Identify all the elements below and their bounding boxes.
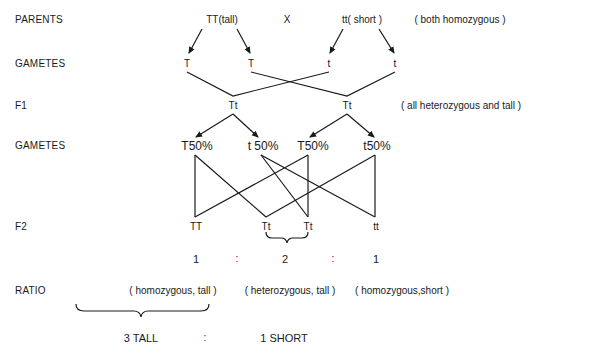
ratio-number-1: 1 (193, 254, 199, 265)
cross-symbol: X (284, 15, 291, 25)
gamete-4: t (394, 59, 397, 69)
gamete-2: T (248, 59, 254, 69)
f1-offspring-2: Tt (343, 101, 352, 111)
ratio-description-2: ( heterozygous, tall ) (245, 286, 336, 296)
brace-tall (76, 304, 209, 317)
arrow-tall-right (237, 29, 250, 53)
ratio-number-3: 1 (373, 254, 379, 265)
ratio-separator-2: : (332, 254, 335, 264)
line-gametes-to-f1-right (251, 72, 395, 96)
arrow-f1a-left (196, 114, 233, 137)
f1-note: ( all heterozygous and tall ) (401, 101, 521, 111)
gamete-3: t (328, 59, 331, 69)
arrow-short-right (379, 29, 394, 53)
phenotype-tall: 3 TALL (124, 333, 158, 344)
row-label-gametes-1: GAMETES (15, 59, 65, 69)
f2-genotype-3: Tt (304, 222, 313, 232)
phenotype-separator: : (204, 333, 207, 343)
ratio-number-2: 2 (282, 254, 288, 265)
arrow-short-left (330, 29, 343, 53)
arrow-f1b-right (347, 114, 374, 137)
f2-genotype-1: TT (190, 222, 202, 232)
arrow-tall-left (189, 29, 202, 53)
parents-note: ( both homozygous ) (414, 15, 505, 25)
f1-gamete-2: t 50% (248, 140, 279, 152)
f1-gamete-3: T50% (297, 140, 328, 152)
line-gametes-to-f1-left (187, 72, 329, 96)
parent-tall: TT(tall) (206, 15, 238, 25)
cross-diagram-lines (0, 0, 604, 359)
f2-genotype-2: Tt (262, 222, 271, 232)
row-label-f2: F2 (15, 222, 27, 232)
row-label-parents: PARENTS (15, 15, 63, 25)
row-label-f1: F1 (15, 101, 27, 111)
row-label-gametes-2: GAMETES (15, 141, 65, 151)
arrow-f1b-left (310, 114, 347, 137)
f1-offspring-1: Tt (229, 101, 238, 111)
phenotype-short: 1 SHORT (260, 333, 307, 344)
ratio-separator-1: : (236, 254, 239, 264)
f2-genotype-4: tt (373, 222, 379, 232)
ratio-description-3: ( homozygous,short ) (355, 286, 449, 296)
gamete-1: T (184, 59, 190, 69)
ratio-description-1: ( homozygous, tall ) (129, 286, 216, 296)
arrow-f1a-right (233, 114, 258, 137)
f1-gamete-4: t50% (363, 140, 390, 152)
f1-gamete-1: T50% (181, 140, 212, 152)
row-label-ratio: RATIO (15, 286, 46, 296)
parent-short: tt( short ) (342, 15, 382, 25)
brace-heterozygous (266, 232, 308, 243)
